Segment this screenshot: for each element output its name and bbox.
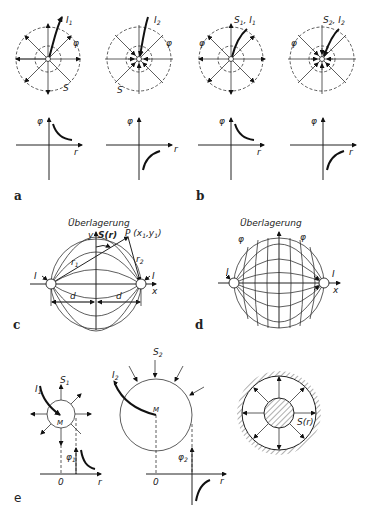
x-axis-label: r xyxy=(174,144,179,154)
panel-label-b: b xyxy=(196,189,204,203)
current-left-label: I xyxy=(34,271,37,281)
panel-label-e: e xyxy=(14,491,21,505)
distance-left-label: d xyxy=(70,291,76,301)
point-label: P (x1,y1) xyxy=(125,228,162,239)
superposition-equipotential-diagram: Überlagerung φ φ I I x xyxy=(218,218,340,328)
small-sphere-source-diagram: S1 I1 M φ1 0 r xyxy=(31,375,103,487)
phi2-label: φ2 xyxy=(178,452,188,463)
potential-label: φ xyxy=(166,38,172,48)
y-axis-label: y xyxy=(87,230,94,240)
potential-graph-3: φ r xyxy=(198,116,264,180)
x-axis-label: r xyxy=(349,147,354,157)
potential-left-label: φ xyxy=(238,234,244,244)
distance-right-label: d xyxy=(116,291,122,301)
sink-field-diagram-4: S2, I2 φ xyxy=(288,15,356,94)
source-field-diagram-3: S1, I1 φ xyxy=(199,15,265,94)
field-label: S xyxy=(63,83,69,93)
x-axis-label: x xyxy=(332,285,339,295)
r2-label: r2 xyxy=(136,254,144,265)
current-right-label: I xyxy=(152,271,155,281)
current-label: I1 xyxy=(66,15,72,26)
panel-label-c: c xyxy=(13,318,20,332)
center-label: M xyxy=(57,419,63,427)
potential-graph-4: φ r xyxy=(290,116,356,180)
potential-label: φ xyxy=(291,38,297,48)
panel-c-title: Überlagerung xyxy=(68,218,130,228)
panel-label-d: d xyxy=(195,318,204,332)
potential-label: φ xyxy=(73,38,79,48)
potential-graph-2: φ r xyxy=(106,116,179,180)
current-left-label: I xyxy=(226,267,229,277)
center-label: M xyxy=(153,406,159,414)
origin-label: 0 xyxy=(153,477,159,487)
y-axis-label: φ xyxy=(311,116,317,126)
r-axis-label: r xyxy=(220,476,225,486)
figure-canvas: I1 φ S I2 φ S S1, I1 φ xyxy=(0,0,375,522)
field-label: S(r) xyxy=(98,230,117,240)
y-axis-label: φ xyxy=(37,116,43,126)
r-axis-label: r xyxy=(98,477,103,487)
panel-label-a: a xyxy=(14,189,22,203)
source-current-label: S1, I1 xyxy=(234,15,256,26)
large-sphere-sink-diagram: S2 I2 M φ2 0 r xyxy=(112,347,226,505)
potential-graph-1: φ r xyxy=(16,116,82,180)
sink-current-label: S2, I2 xyxy=(323,15,345,26)
sink-field-diagram-2: I2 φ S xyxy=(105,15,173,95)
y-axis-label: φ xyxy=(127,116,133,126)
x-axis-label: r xyxy=(257,147,262,157)
phi1-label: φ1 xyxy=(66,452,76,463)
i2-label: I2 xyxy=(112,370,119,381)
superposition-field-lines-diagram: Überlagerung y S(r) P (x1,y1) r1 r2 I I xyxy=(30,218,162,331)
panel-d-title: Überlagerung xyxy=(240,218,302,228)
x-axis-label: r xyxy=(74,147,79,157)
concentric-sphere-capacitor-diagram: S(r) xyxy=(237,371,321,455)
x-axis-label: x xyxy=(151,286,158,296)
s2-label: S2 xyxy=(153,347,163,358)
source-field-diagram-1: I1 φ S xyxy=(16,15,80,94)
potential-right-label: φ xyxy=(300,232,306,242)
field-label: S xyxy=(117,85,123,95)
y-axis-label: φ xyxy=(219,116,225,126)
s1-label: S1 xyxy=(60,375,70,386)
origin-label: 0 xyxy=(58,477,64,487)
current-label: I2 xyxy=(154,15,161,26)
current-right-label: I xyxy=(332,269,335,279)
i1-label: I1 xyxy=(35,384,41,395)
field-label: S(r) xyxy=(297,417,313,427)
potential-label: φ xyxy=(199,38,205,48)
